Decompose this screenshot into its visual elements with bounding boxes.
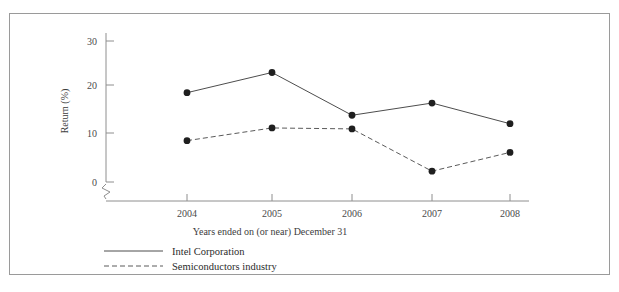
- chart-figure: 30 20 10 0 Return (%) 2004 2005 2006 200…: [0, 0, 619, 292]
- x-tick-label-2008: 2008: [500, 208, 520, 219]
- x-tick-label-2007: 2007: [422, 208, 442, 219]
- y-tick-label-20: 20: [87, 80, 97, 91]
- y-axis: [102, 33, 110, 199]
- data-point-marker: [429, 100, 436, 107]
- plot-area: 30 20 10 0 Return (%) 2004 2005 2006 200…: [0, 0, 619, 292]
- series-line-semiconductors-industry: [187, 128, 510, 171]
- data-point-marker: [349, 125, 356, 132]
- data-point-marker: [184, 137, 191, 144]
- x-tick-label-2006: 2006: [342, 208, 362, 219]
- x-tick-label-2004: 2004: [177, 208, 197, 219]
- data-point-marker: [429, 168, 436, 175]
- y-tick-label-0: 0: [92, 177, 97, 188]
- data-point-marker: [269, 69, 276, 76]
- legend-label-intel-corporation: Intel Corporation: [172, 246, 245, 257]
- legend: Intel Corporation Semiconductors industr…: [104, 246, 277, 272]
- y-axis-title: Return (%): [59, 89, 71, 134]
- x-tick-marks: [187, 194, 510, 201]
- y-tick-label-10: 10: [87, 128, 97, 139]
- data-point-marker: [507, 149, 514, 156]
- data-point-marker: [269, 125, 276, 132]
- x-axis-title: Years ended on (or near) December 31: [193, 226, 347, 238]
- x-tick-label-2005: 2005: [262, 208, 282, 219]
- y-tick-label-30: 30: [87, 36, 97, 47]
- series-line-intel-corporation: [187, 72, 510, 123]
- data-point-marker: [507, 120, 514, 127]
- legend-label-semiconductors-industry: Semiconductors industry: [172, 261, 277, 272]
- series-layer: [184, 69, 514, 175]
- y-tick-marks: [106, 41, 114, 182]
- data-point-marker: [184, 89, 191, 96]
- data-point-marker: [349, 112, 356, 119]
